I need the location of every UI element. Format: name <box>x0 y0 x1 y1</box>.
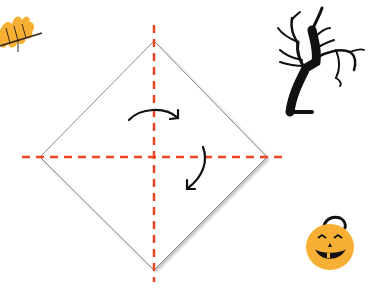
jack-o-lantern-icon <box>306 217 354 270</box>
autumn-leaf-icon <box>0 16 42 52</box>
spooky-tree-icon <box>278 8 364 112</box>
origami-diagram <box>0 0 381 294</box>
